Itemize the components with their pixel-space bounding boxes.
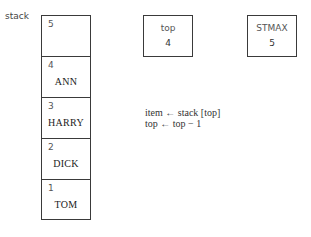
code-line: top ← top − 1 bbox=[145, 118, 220, 129]
pop-pseudocode: item ← stack [top] top ← top − 1 bbox=[145, 107, 220, 129]
stack-cell-5: 5 bbox=[42, 16, 90, 57]
stack-label: stack bbox=[5, 11, 29, 21]
cell-value: TOM bbox=[42, 199, 90, 210]
cell-value: ANN bbox=[42, 76, 90, 87]
code-line: item ← stack [top] bbox=[145, 107, 220, 118]
stack-cell-2: 2 DICK bbox=[42, 139, 90, 180]
stack-cell-3: 3 HARRY bbox=[42, 98, 90, 139]
cell-index: 2 bbox=[48, 142, 54, 152]
cell-index: 1 bbox=[48, 183, 54, 193]
cell-index: 3 bbox=[48, 101, 54, 111]
variable-value: 4 bbox=[144, 38, 192, 48]
stmax-variable-box: STMAX 5 bbox=[247, 15, 297, 57]
variable-value: 5 bbox=[248, 38, 296, 48]
cell-index: 5 bbox=[48, 19, 54, 29]
variable-name: top bbox=[144, 23, 192, 33]
cell-value: HARRY bbox=[42, 117, 90, 128]
top-variable-box: top 4 bbox=[143, 15, 193, 57]
cell-value: DICK bbox=[42, 158, 90, 169]
stack-cell-1: 1 TOM bbox=[42, 180, 90, 221]
variable-name: STMAX bbox=[248, 23, 296, 33]
stack-array: 5 4 ANN 3 HARRY 2 DICK 1 TOM bbox=[41, 15, 91, 220]
stack-cell-4: 4 ANN bbox=[42, 57, 90, 98]
cell-index: 4 bbox=[48, 60, 54, 70]
